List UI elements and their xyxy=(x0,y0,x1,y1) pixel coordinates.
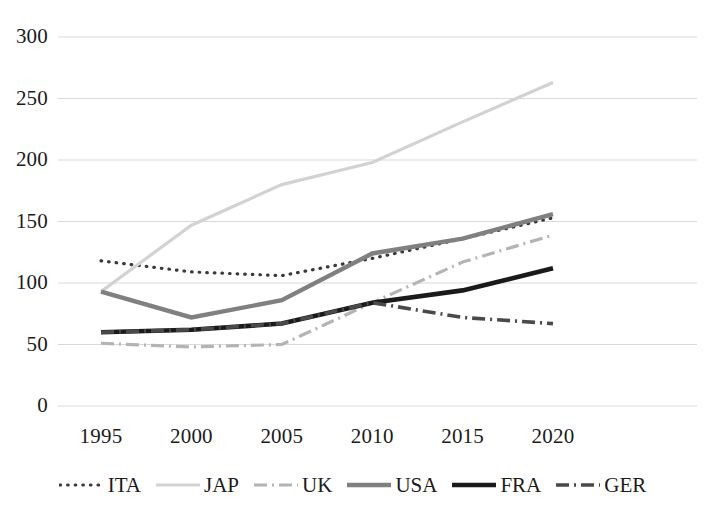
y-tick-100: 100 xyxy=(0,270,48,295)
legend-item-ita[interactable]: ITA xyxy=(59,473,141,498)
y-tick-200: 200 xyxy=(0,147,48,172)
y-tick-150: 150 xyxy=(0,209,48,234)
legend-swatch-usa-icon xyxy=(346,478,392,492)
series-line-jap xyxy=(101,83,553,292)
legend-swatch-ita-icon xyxy=(59,478,105,492)
legend-label-uk: UK xyxy=(302,473,332,498)
chart-legend: ITAJAPUKUSAFRAGER xyxy=(0,466,705,504)
legend-label-jap: JAP xyxy=(204,473,239,498)
x-tick-2000: 2000 xyxy=(146,424,236,449)
legend-label-ita: ITA xyxy=(108,473,141,498)
x-tick-2010: 2010 xyxy=(327,424,417,449)
y-tick-50: 50 xyxy=(0,332,48,357)
legend-item-jap[interactable]: JAP xyxy=(155,473,239,498)
legend-swatch-fra-icon xyxy=(451,478,497,492)
y-tick-300: 300 xyxy=(0,24,48,49)
y-tick-0: 0 xyxy=(0,393,48,418)
legend-swatch-ger-icon xyxy=(555,478,601,492)
series-line-ita xyxy=(101,218,553,276)
legend-item-usa[interactable]: USA xyxy=(346,473,437,498)
line-chart: 050100150200250300 199520002005201020152… xyxy=(0,0,705,518)
legend-label-ger: GER xyxy=(604,473,646,498)
legend-item-uk[interactable]: UK xyxy=(253,473,332,498)
legend-swatch-jap-icon xyxy=(155,478,201,492)
x-tick-2015: 2015 xyxy=(418,424,508,449)
legend-item-ger[interactable]: GER xyxy=(555,473,646,498)
legend-label-fra: FRA xyxy=(500,473,541,498)
legend-label-usa: USA xyxy=(395,473,437,498)
x-tick-2005: 2005 xyxy=(237,424,327,449)
y-tick-250: 250 xyxy=(0,86,48,111)
legend-item-fra[interactable]: FRA xyxy=(451,473,541,498)
x-tick-2020: 2020 xyxy=(508,424,598,449)
legend-swatch-uk-icon xyxy=(253,478,299,492)
x-tick-1995: 1995 xyxy=(56,424,146,449)
series-line-ger xyxy=(101,303,553,333)
